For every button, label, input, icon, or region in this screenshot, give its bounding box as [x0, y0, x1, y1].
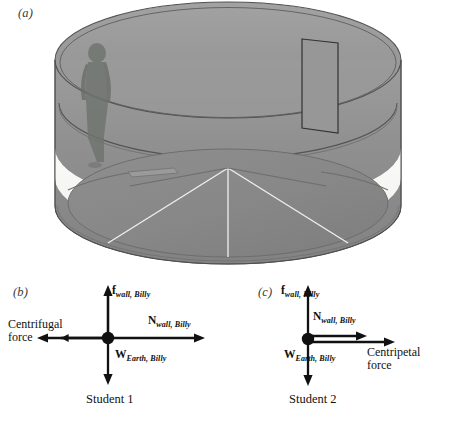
caption-student-1: Student 1 — [86, 392, 134, 407]
symbol-w: W — [115, 348, 127, 360]
subscript-w: Earth, Billy — [127, 354, 167, 363]
arrow-normal-wall-billy — [308, 331, 367, 340]
rotor-illustration-panel — [0, 0, 453, 278]
label-weight-earth-billy: WEarth, Billy — [115, 348, 166, 363]
figure-rotor-free-body-diagrams: (a) — [0, 0, 453, 421]
symbol-w: W — [284, 348, 296, 360]
origin-dot-billy — [302, 333, 314, 345]
centripetal-line-1: Centripetal — [367, 345, 420, 359]
panel-label-a: (a) — [18, 6, 33, 21]
subscript-n: wall, Billy — [156, 320, 190, 329]
arrow-normal-wall-billy — [108, 333, 205, 342]
origin-dot-billy — [102, 332, 114, 344]
free-body-diagram-student-1: fwall, Billy Nwall, Billy WEarth, Billy … — [0, 278, 226, 421]
centrifugal-line-2: force — [8, 330, 33, 344]
drum-floor — [68, 149, 388, 257]
subscript-f: wall, Billy — [285, 290, 319, 299]
label-friction-wall-billy: fwall, Billy — [112, 284, 150, 299]
label-centripetal-force: Centripetal force — [367, 346, 420, 372]
arrow-weight-earth-billy — [103, 338, 112, 385]
label-normal-wall-billy: Nwall, Billy — [148, 314, 191, 329]
label-weight-earth-billy: WEarth, Billy — [284, 348, 335, 363]
person-head — [88, 43, 106, 63]
centrifugal-line-1: Centrifugal — [8, 317, 63, 331]
door-panel — [302, 39, 338, 133]
subscript-f: wall, Billy — [116, 290, 150, 299]
centripetal-line-2: force — [367, 358, 392, 372]
panel-label-b: (b) — [13, 285, 28, 300]
rotor-drum-drawing — [0, 0, 453, 278]
subscript-w: Earth, Billy — [296, 354, 336, 363]
drum-door — [302, 39, 338, 133]
subscript-n: wall, Billy — [321, 316, 355, 325]
person-feet — [88, 162, 102, 168]
label-centrifugal-force: Centrifugal force — [8, 318, 63, 344]
panel-label-c: (c) — [258, 285, 272, 300]
label-friction-wall-billy: fwall, Billy — [281, 284, 319, 299]
caption-student-2: Student 2 — [289, 392, 337, 407]
label-normal-wall-billy: Nwall, Billy — [313, 310, 356, 325]
